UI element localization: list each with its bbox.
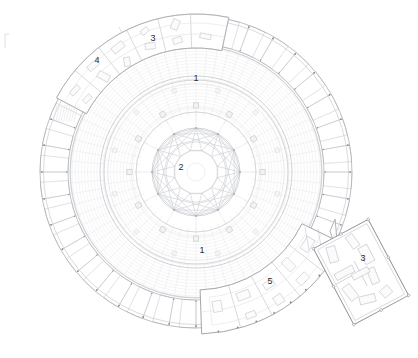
room-label-5-wing-south: 5 xyxy=(267,277,272,286)
annex-building xyxy=(312,218,411,327)
room-label-2-central-medallion: 2 xyxy=(178,163,183,172)
sheet-corner-mark xyxy=(5,34,9,48)
room-label-1-main-hall: 1 xyxy=(193,74,198,83)
room-label-3-annex: 3 xyxy=(360,254,365,263)
room-label-3-office-north: 3 xyxy=(150,34,155,43)
floor-plan-canvas: 1213453 xyxy=(0,0,418,358)
room-label-4-service-north: 4 xyxy=(94,56,99,65)
room-label-1-main-hall: 1 xyxy=(199,246,204,255)
floor-plan-drawing xyxy=(0,0,418,358)
